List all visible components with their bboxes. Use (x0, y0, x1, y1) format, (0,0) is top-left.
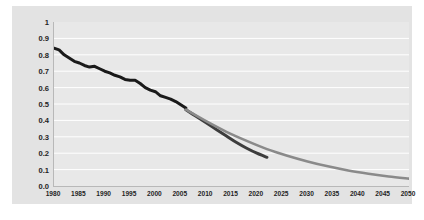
y-tick-label: 0.1 (5, 165, 49, 174)
y-tick-label: 0.7 (5, 67, 49, 76)
y-tick-label: 0.2 (5, 149, 49, 158)
x-tick-label: 2030 (299, 190, 314, 197)
chart-plot-svg (54, 22, 409, 186)
y-tick-label: 0.8 (5, 50, 49, 59)
series-line-history (54, 48, 186, 108)
x-tick-label: 2000 (147, 190, 162, 197)
y-tick-label: 0.9 (5, 34, 49, 43)
x-tick-label: 2020 (249, 190, 264, 197)
x-tick-label: 2040 (350, 190, 365, 197)
y-tick-label: 0.3 (5, 132, 49, 141)
y-tick-label: 0.0 (5, 182, 49, 191)
x-tick-label: 2015 (223, 190, 238, 197)
y-axis-ticks: 10.90.80.70.60.50.40.30.20.10.0 (0, 22, 49, 186)
x-tick-label: 1990 (96, 190, 111, 197)
x-tick-label: 2025 (274, 190, 289, 197)
y-tick-label: 1 (5, 18, 49, 27)
x-tick-label: 1985 (71, 190, 86, 197)
y-tick-label: 0.6 (5, 83, 49, 92)
x-tick-label: 2035 (325, 190, 340, 197)
x-axis-ticks: 1980198519901995200020052010201520202025… (53, 190, 408, 202)
x-tick-label: 2005 (172, 190, 187, 197)
x-tick-label: 2045 (375, 190, 390, 197)
x-tick-label: 1980 (46, 190, 61, 197)
plot-area (53, 22, 409, 187)
x-tick-label: 2050 (401, 190, 416, 197)
y-tick-label: 0.5 (5, 100, 49, 109)
x-tick-label: 1995 (122, 190, 137, 197)
y-tick-label: 0.4 (5, 116, 49, 125)
x-tick-label: 2010 (198, 190, 213, 197)
chart-container: Metric tons carbon dioxide per $1,000 GD… (0, 0, 424, 220)
